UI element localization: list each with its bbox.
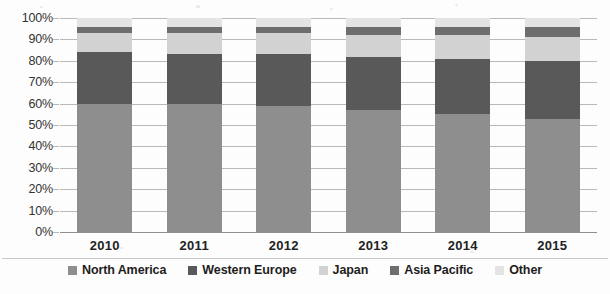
y-tick-label: 20% bbox=[5, 183, 53, 196]
bar-segment[interactable] bbox=[346, 27, 401, 36]
y-tick-label: 0% bbox=[5, 226, 53, 239]
bar-segment[interactable] bbox=[167, 33, 222, 54]
bar-stack bbox=[256, 18, 311, 232]
legend-item-western-europe[interactable]: Western Europe bbox=[188, 263, 296, 277]
bar-segment[interactable] bbox=[167, 104, 222, 232]
bar-group-2010[interactable] bbox=[77, 18, 132, 232]
gridline-50% bbox=[60, 125, 597, 126]
y-tick-label: 60% bbox=[5, 97, 53, 110]
x-tick-label-2010: 2010 bbox=[60, 238, 150, 253]
bar-segment[interactable] bbox=[256, 54, 311, 105]
bar-segment[interactable] bbox=[346, 110, 401, 232]
bar-group-2014[interactable] bbox=[435, 18, 490, 232]
scan-speck bbox=[455, 4, 458, 6]
bar-segment[interactable] bbox=[435, 27, 490, 36]
x-tick-label-2015: 2015 bbox=[508, 238, 598, 253]
y-tick-label: 40% bbox=[5, 140, 53, 153]
y-tick-label: 10% bbox=[5, 204, 53, 217]
y-tick-mark bbox=[53, 211, 59, 212]
y-tick-label: 80% bbox=[5, 55, 53, 68]
y-axis: 0%10%20%30%40%50%60%70%80%90%100% bbox=[0, 18, 53, 232]
chart-legend: North AmericaWestern EuropeJapanAsia Pac… bbox=[0, 263, 610, 277]
y-tick-mark bbox=[53, 125, 59, 126]
legend-label: Western Europe bbox=[202, 263, 296, 277]
legend-swatch-icon bbox=[495, 266, 504, 275]
gridline-20% bbox=[60, 189, 597, 190]
bar-group-2015[interactable] bbox=[525, 18, 580, 232]
bar-segment[interactable] bbox=[167, 18, 222, 27]
gridline-90% bbox=[60, 39, 597, 40]
gridline-30% bbox=[60, 168, 597, 169]
bar-segment[interactable] bbox=[256, 18, 311, 27]
y-tick-mark bbox=[53, 39, 59, 40]
gridline-40% bbox=[60, 146, 597, 147]
bar-segment[interactable] bbox=[525, 61, 580, 119]
bar-group-2011[interactable] bbox=[167, 18, 222, 232]
y-tick-label: 100% bbox=[5, 12, 53, 25]
bar-stack bbox=[77, 18, 132, 232]
legend-label: Asia Pacific bbox=[404, 263, 473, 277]
bar-segment[interactable] bbox=[346, 18, 401, 27]
scan-speck bbox=[330, 8, 333, 10]
bar-segment[interactable] bbox=[346, 35, 401, 56]
x-tick-label-2014: 2014 bbox=[418, 238, 508, 253]
legend-item-other[interactable]: Other bbox=[495, 263, 542, 277]
y-tick-mark bbox=[53, 189, 59, 190]
bar-segment[interactable] bbox=[435, 59, 490, 115]
bar-segment[interactable] bbox=[346, 57, 401, 111]
gridline-60% bbox=[60, 104, 597, 105]
x-axis: 201020112012201320142015 bbox=[60, 234, 597, 256]
gridline-10% bbox=[60, 211, 597, 212]
bar-segment[interactable] bbox=[525, 18, 580, 27]
scan-speck bbox=[40, 6, 43, 8]
bar-segment[interactable] bbox=[77, 104, 132, 232]
bar-segment[interactable] bbox=[256, 33, 311, 54]
gridline-70% bbox=[60, 82, 597, 83]
bar-segment[interactable] bbox=[525, 27, 580, 38]
bar-segment[interactable] bbox=[435, 35, 490, 59]
y-tick-mark bbox=[53, 61, 59, 62]
legend-swatch-icon bbox=[319, 266, 328, 275]
bar-segment[interactable] bbox=[256, 106, 311, 232]
plot-area bbox=[60, 18, 597, 232]
y-tick-mark bbox=[53, 232, 59, 233]
y-tick-mark bbox=[53, 146, 59, 147]
gridline-100% bbox=[60, 18, 597, 19]
y-tick-label: 50% bbox=[5, 119, 53, 132]
legend-label: Other bbox=[509, 263, 542, 277]
legend-swatch-icon bbox=[188, 266, 197, 275]
gridline-0% bbox=[60, 232, 597, 233]
y-tick-label: 30% bbox=[5, 162, 53, 175]
y-tick-label: 90% bbox=[5, 33, 53, 46]
legend-swatch-icon bbox=[390, 266, 399, 275]
x-tick-label-2011: 2011 bbox=[150, 238, 240, 253]
bar-segment[interactable] bbox=[167, 54, 222, 103]
bar-stack bbox=[346, 18, 401, 232]
y-tick-mark bbox=[53, 82, 59, 83]
bar-stack bbox=[435, 18, 490, 232]
scan-speck bbox=[196, 5, 200, 8]
bar-segment[interactable] bbox=[525, 119, 580, 232]
legend-swatch-icon bbox=[68, 266, 77, 275]
bar-segment[interactable] bbox=[77, 18, 132, 27]
bar-group-2012[interactable] bbox=[256, 18, 311, 232]
legend-separator bbox=[2, 258, 608, 259]
stacked-bar-chart: 0%10%20%30%40%50%60%70%80%90%100% 201020… bbox=[0, 0, 610, 294]
bar-stack bbox=[167, 18, 222, 232]
y-tick-mark bbox=[53, 168, 59, 169]
bar-segment[interactable] bbox=[435, 18, 490, 27]
y-tick-label: 70% bbox=[5, 76, 53, 89]
legend-item-asia-pacific[interactable]: Asia Pacific bbox=[390, 263, 473, 277]
legend-label: North America bbox=[82, 263, 166, 277]
x-tick-label-2013: 2013 bbox=[329, 238, 419, 253]
bar-segment[interactable] bbox=[525, 37, 580, 61]
bar-segment[interactable] bbox=[77, 33, 132, 52]
legend-label: Japan bbox=[333, 263, 369, 277]
legend-item-japan[interactable]: Japan bbox=[319, 263, 369, 277]
bar-group-2013[interactable] bbox=[346, 18, 401, 232]
legend-item-north-america[interactable]: North America bbox=[68, 263, 166, 277]
y-tick-mark bbox=[53, 18, 59, 19]
bar-segment[interactable] bbox=[435, 114, 490, 232]
bar-segment[interactable] bbox=[77, 52, 132, 103]
y-tick-mark bbox=[53, 104, 59, 105]
